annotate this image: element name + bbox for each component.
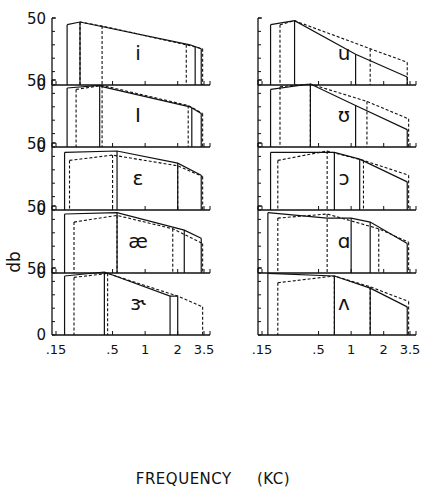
vowel-label: ɔ [339,166,350,190]
xtick-label: .5 [106,342,118,357]
panel-ɔ: ɔ [258,143,416,210]
xtick-label: 1 [141,342,149,357]
vowel-label: ε [133,166,144,190]
vowel-label: ɝ [130,291,146,315]
xtick-label: 3.5 [194,342,215,357]
xtick-label: 2 [380,342,388,357]
panel-i: 500i [27,10,210,94]
solid-envelope [67,22,201,49]
panel-ɝ: 500ɝ.15.5123.5 [27,260,214,357]
vowel-label: ʊ [338,103,350,127]
xtick-label: .15 [46,342,67,357]
xtick-label: 3.5 [400,342,421,357]
panel-ʌ: ʌ.15.5123.5 [252,268,421,357]
ytick-label-50: 50 [27,260,46,278]
xtick-label: .5 [312,342,324,357]
xtick-label: 2 [174,342,182,357]
vowel-label: æ [128,229,148,253]
vowel-label: ʌ [338,291,350,315]
x-axis-title: FREQUENCY (KC) [0,470,426,488]
ytick-label-50: 50 [27,135,46,153]
solid-envelope [65,272,178,296]
ytick-label-50: 50 [27,198,46,216]
ytick-label-50: 50 [27,72,46,90]
vowel-label: ɑ [338,229,351,253]
vowel-spectra-figure: 500i500I500ε500æ500ɝ.15.5123.5uʊɔɑʌ.15.5… [0,0,426,499]
vowel-label: i [135,41,141,65]
panel-ɑ: ɑ [258,206,416,273]
vowel-label: I [135,103,141,127]
xtick-label: .15 [252,342,273,357]
ytick-label-50: 50 [27,10,46,28]
panels-svg: 500i500I500ε500æ500ɝ.15.5123.5uʊɔɑʌ.15.5… [0,0,426,499]
xtick-label: 1 [347,342,355,357]
x-axis-title-word: FREQUENCY [136,470,232,488]
ytick-label-0: 0 [36,326,46,344]
panel-u: u [258,18,416,85]
y-axis-label: db [4,250,24,274]
panel-ʊ: ʊ [258,80,416,147]
x-axis-title-unit: (KC) [257,470,290,488]
vowel-label: u [338,41,351,65]
